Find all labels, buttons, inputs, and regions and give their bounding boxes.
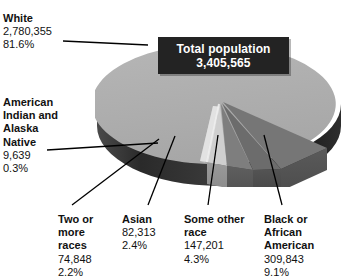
label-white-percent: 81.6% [3,38,52,51]
label-aian-title-line4: Native [3,136,58,149]
label-two-title-line3: races [58,239,93,252]
callout-label-american-indian-alaska-native: American Indian and Alaska Native 9,639 … [3,96,58,175]
plaque-total: 3,405,565 [196,56,250,70]
label-white-title: White [3,12,52,25]
label-other-count: 147,201 [184,239,245,252]
label-two-percent: 2.2% [58,266,93,277]
label-aian-percent: 0.3% [3,162,58,175]
label-aian-title-line1: American [3,96,58,109]
label-aian-count: 9,639 [3,149,58,162]
total-population-plaque: Total population 3,405,565 [158,37,289,74]
label-black-percent: 9.1% [264,266,314,277]
label-white-count: 2,780,355 [3,25,52,38]
label-two-title-line2: more [58,226,93,239]
label-two-count: 74,848 [58,253,93,266]
label-aian-title-line3: Alaska [3,122,58,135]
chart-canvas: Total population 3,405,565 White 2,780,3… [0,0,347,277]
label-other-title-line2: race [184,226,245,239]
label-black-title-line3: American [264,239,314,252]
callout-label-white: White 2,780,355 81.6% [3,12,52,52]
label-two-title-line1: Two or [58,213,93,226]
label-asian-count: 82,313 [122,226,156,239]
plaque-title: Total population [176,42,270,56]
label-other-title-line1: Some other [184,213,245,226]
label-black-count: 309,843 [264,253,314,266]
callout-label-black-or-african-american: Black or African American 309,843 9.1% [264,213,314,277]
callout-label-asian: Asian 82,313 2.4% [122,213,156,253]
label-black-title-line1: Black or [264,213,314,226]
label-asian-title: Asian [122,213,156,226]
callout-label-two-or-more-races: Two or more races 74,848 2.2% [58,213,93,277]
label-aian-title-line2: Indian and [3,109,58,122]
label-asian-percent: 2.4% [122,239,156,252]
slice-other-wall [253,169,281,187]
slice-two-wall [207,162,227,187]
callout-label-some-other-race: Some other race 147,201 4.3% [184,213,245,266]
label-other-percent: 4.3% [184,253,245,266]
label-black-title-line2: African [264,226,314,239]
